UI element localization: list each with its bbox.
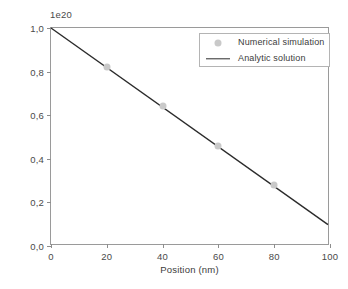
y-tick	[47, 115, 51, 116]
data-point-marker	[159, 103, 166, 110]
x-tick-label: 100	[322, 251, 338, 262]
y-tick	[47, 202, 51, 203]
x-tick	[107, 244, 108, 248]
data-point-marker	[103, 64, 110, 71]
legend-item-numerical-simulation: Numerical simulation	[200, 34, 329, 51]
x-tick-label: 60	[213, 251, 224, 262]
y-tick-label: 0,0	[30, 241, 44, 252]
y-tick-label: 0,8	[30, 66, 44, 77]
x-tick	[163, 244, 164, 248]
legend-item-analytic-solution: Analytic solution	[200, 50, 329, 67]
y-tick-label: 0,2	[30, 197, 44, 208]
x-tick	[274, 244, 275, 248]
y-tick	[47, 28, 51, 29]
legend-label: Analytic solution	[238, 50, 306, 67]
legend-label: Numerical simulation	[238, 34, 325, 51]
y-tick-label: 0,4	[30, 153, 44, 164]
y-tick-label: 1,0	[30, 23, 44, 34]
x-tick-label: 20	[101, 251, 112, 262]
x-tick	[218, 244, 219, 248]
y-axis-offset-label: 1e20	[50, 9, 72, 20]
y-tick	[47, 72, 51, 73]
y-tick-label: 0,6	[30, 110, 44, 121]
legend-swatch	[200, 34, 236, 51]
legend-swatch	[200, 50, 236, 67]
chart-figure: 1e20 0,00,20,40,60,81,0020406080100 Posi…	[0, 0, 348, 289]
data-point-marker	[215, 142, 222, 149]
x-axis-title: Position (nm)	[50, 264, 329, 275]
line-swatch-icon	[206, 58, 230, 59]
legend: Numerical simulation Analytic solution	[199, 33, 330, 67]
data-point-marker	[271, 181, 278, 188]
x-tick-label: 40	[157, 251, 168, 262]
x-tick	[330, 244, 331, 248]
y-tick	[47, 159, 51, 160]
x-tick	[51, 244, 52, 248]
x-tick-label: 0	[48, 251, 53, 262]
x-tick-label: 80	[269, 251, 280, 262]
circle-marker-icon	[215, 39, 222, 46]
